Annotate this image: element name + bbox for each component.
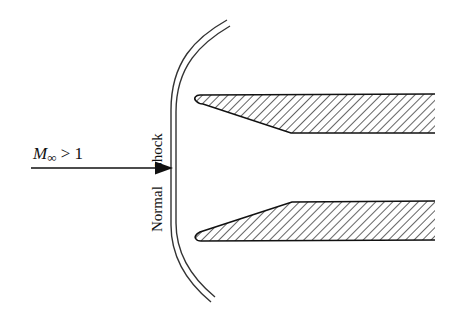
lower-inlet-lip [195, 201, 435, 241]
shock-outer-line [171, 20, 227, 302]
normal-shock [171, 20, 230, 302]
normal-shock-label: Normalshock [149, 133, 165, 232]
shock-inner-line [176, 26, 230, 297]
mach-label: M∞ > 1 [32, 144, 83, 165]
inlet-diagram: M∞ > 1 Normalshock [0, 0, 459, 319]
